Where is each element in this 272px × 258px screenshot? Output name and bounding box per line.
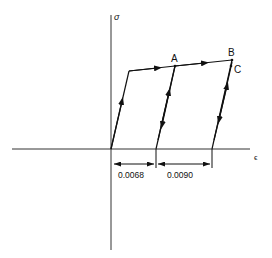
dimension-label-2: 0.0090	[167, 170, 193, 180]
dimension-lines	[114, 149, 212, 168]
point-A-label: A	[171, 53, 178, 64]
point-B-marker	[231, 59, 234, 62]
point-C-marker	[230, 65, 233, 68]
dimension-label-1: 0.0068	[118, 170, 144, 180]
unload-reload-B	[212, 60, 232, 149]
sigma-axis-label: σ	[114, 12, 120, 22]
epsilon-axis-label: ϵ	[254, 153, 258, 162]
stress-strain-diagram: σ ϵ A B C 0.0068 0.0090	[0, 0, 272, 258]
point-A-marker	[174, 65, 177, 68]
point-C-label: C	[234, 64, 241, 75]
loading-path	[111, 60, 232, 149]
unload-reload-A	[156, 66, 175, 149]
point-B-label: B	[228, 47, 235, 58]
